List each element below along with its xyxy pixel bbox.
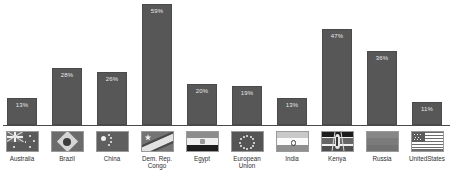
legend-slot-brazil: Brazil (45, 131, 89, 162)
legend-slot-china: China (90, 131, 134, 162)
category-axis-legend: Australia Brazil China Dem. R (0, 131, 453, 188)
bar-brazil[interactable]: 28% (52, 68, 82, 125)
bar-slot-dem-rep-congo: 59% (135, 0, 179, 125)
bar-value-european-union: 19% (233, 90, 261, 97)
legend-slot-australia: Australia (0, 131, 44, 162)
category-label-brazil: Brazil (45, 155, 89, 162)
bar-slot-egypt: 20% (180, 0, 224, 125)
bar-dem-rep-congo[interactable]: 59% (142, 4, 172, 125)
legend-slot-united-states: UnitedStates (405, 131, 449, 162)
legend-slot-european-union: European Union (225, 131, 269, 170)
category-label-russia: Russia (360, 155, 404, 162)
category-label-united-states: UnitedStates (405, 155, 449, 162)
bar-india[interactable]: 13% (277, 98, 307, 125)
bar-value-australia: 13% (8, 102, 36, 109)
bar-value-china: 26% (98, 76, 126, 83)
bar-australia[interactable]: 13% (7, 98, 37, 125)
legend-slot-india: India (270, 131, 314, 162)
plot-area: 13% 28% 26% 59% 20% 19% (0, 0, 453, 127)
bar-value-united-states: 11% (413, 106, 441, 113)
bar-chart: 13% 28% 26% 59% 20% 19% (0, 0, 453, 188)
bar-european-union[interactable]: 19% (232, 86, 262, 125)
bar-slot-china: 26% (90, 0, 134, 125)
category-label-egypt: Egypt (180, 155, 224, 162)
category-label-india: India (270, 155, 314, 162)
bar-value-brazil: 28% (53, 72, 81, 79)
european-union-flag-icon (231, 131, 264, 152)
kenya-flag-icon (321, 131, 354, 152)
bar-russia[interactable]: 36% (367, 51, 397, 125)
category-label-dem-rep-congo: Dem. Rep. Congo (135, 155, 179, 170)
bar-slot-russia: 36% (360, 0, 404, 125)
legend-slot-dem-rep-congo: Dem. Rep. Congo (135, 131, 179, 170)
bar-value-india: 13% (278, 102, 306, 109)
category-label-dem-china: China (90, 155, 134, 162)
bar-value-dem-rep-congo: 59% (143, 8, 171, 15)
united-states-flag-icon (411, 131, 444, 152)
bar-value-russia: 36% (368, 55, 396, 62)
egypt-flag-icon (186, 131, 219, 152)
bar-egypt[interactable]: 20% (187, 84, 217, 125)
legend-slot-egypt: Egypt (180, 131, 224, 162)
legend-slot-russia: Russia (360, 131, 404, 162)
china-flag-icon (96, 131, 129, 152)
bar-united-states[interactable]: 11% (412, 102, 442, 125)
dem-rep-congo-flag-icon (141, 131, 174, 152)
bar-kenya[interactable]: 47% (322, 29, 352, 125)
bar-slot-kenya: 47% (315, 0, 359, 125)
bar-slot-european-union: 19% (225, 0, 269, 125)
category-label-australia: Australia (0, 155, 44, 162)
russia-flag-icon (366, 131, 399, 152)
bar-slot-brazil: 28% (45, 0, 89, 125)
legend-slot-kenya: Kenya (315, 131, 359, 162)
bar-value-kenya: 47% (323, 33, 351, 40)
bar-slot-australia: 13% (0, 0, 44, 125)
category-label-european-union: European Union (225, 155, 269, 170)
brazil-flag-icon (51, 131, 84, 152)
india-flag-icon (276, 131, 309, 152)
x-axis-line (3, 125, 450, 126)
bar-slot-india: 13% (270, 0, 314, 125)
bar-china[interactable]: 26% (97, 72, 127, 125)
australia-flag-icon (6, 131, 39, 152)
category-label-kenya: Kenya (315, 155, 359, 162)
bar-value-egypt: 20% (188, 88, 216, 95)
bar-slot-united-states: 11% (405, 0, 449, 125)
